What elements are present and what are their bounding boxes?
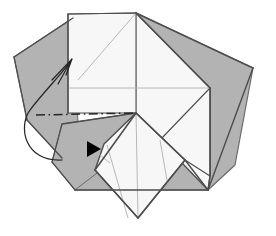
origami-diagram-svg: Origami folding step diagram: [0, 0, 276, 236]
main-white-rectangle: [68, 13, 136, 113]
origami-diagram-container: Origami folding step diagram: [0, 0, 276, 236]
